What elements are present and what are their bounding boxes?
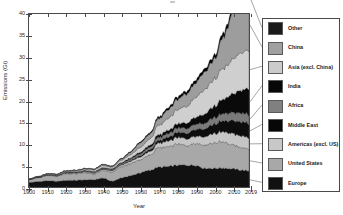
legend-swatch bbox=[268, 119, 283, 132]
x-tick-mark-top bbox=[216, 14, 217, 17]
legend-label: Europe bbox=[288, 181, 307, 186]
x-tick-label: 1970 bbox=[153, 190, 165, 196]
y-tick-mark-inner bbox=[29, 36, 32, 37]
legend-swatch bbox=[268, 42, 283, 55]
x-axis-title: Year bbox=[133, 203, 145, 209]
legend-leader-line bbox=[250, 180, 262, 182]
x-tick-mark-top bbox=[234, 14, 235, 17]
legend-item[interactable]: Asia (excl. China) bbox=[268, 61, 333, 74]
y-tick-label: 35 bbox=[19, 33, 25, 39]
y-tick-mark-inner bbox=[29, 80, 32, 81]
x-tick-label: 2010 bbox=[228, 190, 240, 196]
x-tick-label: 1920 bbox=[60, 190, 72, 196]
legend-leader-line bbox=[250, 25, 262, 47]
x-tick-label: 1990 bbox=[191, 190, 203, 196]
legend-label: Middle East bbox=[288, 123, 318, 128]
legend-label: Africa bbox=[288, 103, 303, 108]
y-tick-mark-inner bbox=[29, 58, 32, 59]
y-tick-label: 20 bbox=[19, 99, 25, 105]
y-tick-label: 15 bbox=[19, 121, 25, 127]
y-tick-mark-inner bbox=[29, 123, 32, 124]
y-tick-label: 25 bbox=[19, 77, 25, 83]
legend-swatch bbox=[268, 61, 283, 74]
x-tick-mark-top bbox=[122, 14, 123, 17]
y-tick-mark-inner bbox=[29, 102, 32, 103]
legend-leader-line bbox=[250, 66, 262, 69]
x-tick-label: 1930 bbox=[79, 190, 91, 196]
x-tick-mark-top bbox=[141, 14, 142, 17]
legend-item[interactable]: Europe bbox=[268, 177, 307, 190]
legend-swatch bbox=[268, 80, 283, 93]
x-tick-mark-top bbox=[48, 14, 49, 17]
top-artifact-mark bbox=[170, 1, 175, 3]
legend-swatch bbox=[268, 22, 283, 35]
x-tick-label: 1900 bbox=[23, 190, 35, 196]
x-tick-mark-top bbox=[178, 14, 179, 17]
x-tick-mark-top bbox=[104, 14, 105, 17]
legend-item[interactable]: China bbox=[268, 42, 303, 55]
legend-leader-line bbox=[250, 161, 262, 163]
legend-swatch bbox=[268, 158, 283, 171]
plot-area: 0510152025303540 19001910192019301940195… bbox=[28, 13, 250, 188]
legend-item[interactable]: Africa bbox=[268, 100, 303, 113]
x-tick-label: 1960 bbox=[135, 190, 147, 196]
legend-label: Americas (excl. US) bbox=[288, 142, 338, 147]
y-tick-label: 5 bbox=[22, 164, 25, 170]
chart-figure: 0510152025303540 19001910192019301940195… bbox=[0, 0, 343, 215]
legend-label: United States bbox=[288, 161, 322, 166]
legend-item[interactable]: India bbox=[268, 80, 301, 93]
x-tick-mark-top bbox=[66, 14, 67, 17]
x-tick-label: 1910 bbox=[42, 190, 54, 196]
x-tick-label: 1980 bbox=[172, 190, 184, 196]
legend-item[interactable]: United States bbox=[268, 158, 322, 171]
x-tick-label: 1940 bbox=[97, 190, 109, 196]
legend-item[interactable]: Other bbox=[268, 22, 302, 35]
legend-label: Other bbox=[288, 26, 302, 31]
legend-swatch bbox=[268, 177, 283, 190]
x-tick-mark-top bbox=[29, 14, 30, 17]
stacked-area-series bbox=[29, 14, 249, 187]
legend: OtherChinaAsia (excl. China)IndiaAfricaM… bbox=[262, 18, 340, 192]
legend-label: Asia (excl. China) bbox=[288, 65, 333, 70]
plot-clip bbox=[29, 14, 249, 187]
y-tick-mark-inner bbox=[29, 145, 32, 146]
legend-leader-line bbox=[250, 86, 262, 102]
legend-leader-line bbox=[250, 124, 262, 131]
legend-item[interactable]: Middle East bbox=[268, 119, 318, 132]
y-tick-label: 40 bbox=[19, 11, 25, 17]
y-tick-label: 10 bbox=[19, 143, 25, 149]
x-tick-label: 1950 bbox=[116, 190, 128, 196]
y-tick-mark-inner bbox=[29, 167, 32, 168]
legend-leader-line bbox=[250, 105, 262, 119]
legend-item[interactable]: Americas (excl. US) bbox=[268, 138, 338, 151]
x-tick-mark-top bbox=[251, 14, 252, 17]
x-tick-label: 2000 bbox=[209, 190, 221, 196]
x-tick-mark-top bbox=[85, 14, 86, 17]
x-tick-mark-top bbox=[160, 14, 161, 17]
legend-swatch bbox=[268, 100, 283, 113]
y-axis-title: Emissions (Gt) bbox=[2, 61, 8, 100]
legend-swatch bbox=[268, 138, 283, 151]
x-tick-mark-top bbox=[197, 14, 198, 17]
legend-label: China bbox=[288, 45, 303, 50]
legend-label: India bbox=[288, 84, 301, 89]
x-tick-label: 2019 bbox=[245, 190, 257, 196]
y-tick-label: 30 bbox=[19, 55, 25, 61]
